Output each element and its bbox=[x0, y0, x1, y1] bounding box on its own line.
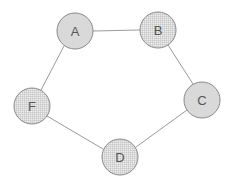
edge-b-c bbox=[168, 45, 193, 84]
node-f-label: F bbox=[28, 99, 36, 114]
node-c-label: C bbox=[197, 93, 206, 108]
edges bbox=[41, 30, 193, 149]
edge-f-a bbox=[41, 46, 64, 90]
node-d-label: D bbox=[115, 150, 124, 165]
node-f[interactable]: F bbox=[14, 88, 50, 124]
edge-a-b bbox=[93, 30, 140, 31]
node-d[interactable]: D bbox=[102, 139, 138, 175]
node-a-label: A bbox=[71, 24, 80, 39]
node-b[interactable]: B bbox=[140, 12, 176, 48]
node-a[interactable]: A bbox=[57, 13, 93, 49]
edge-d-f bbox=[47, 116, 103, 149]
edge-c-d bbox=[136, 110, 187, 147]
node-c[interactable]: C bbox=[184, 82, 220, 118]
node-b-label: B bbox=[154, 23, 163, 38]
graph-diagram: A B C D F bbox=[0, 0, 232, 185]
